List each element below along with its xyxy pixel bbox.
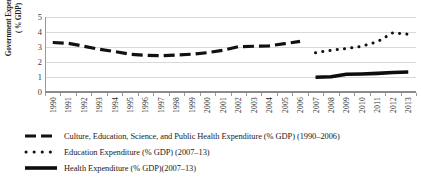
dotted-line-marker — [24, 146, 58, 158]
x-axis-tick — [370, 93, 371, 96]
x-axis-tick — [91, 93, 92, 96]
x-axis-tick-label: 2004 — [265, 97, 274, 113]
x-axis-tick-label: 2010 — [358, 97, 367, 113]
x-axis-tick-label: 2008 — [327, 97, 336, 113]
x-axis-tick-label: 2007 — [312, 97, 321, 113]
series-line-0 — [53, 41, 300, 55]
x-axis-tick-label: 2013 — [404, 97, 413, 113]
x-axis-tick-label: 1993 — [95, 97, 104, 113]
x-axis-tick — [246, 93, 247, 96]
x-axis-tick-label: 2000 — [203, 97, 212, 113]
x-axis-tick — [277, 93, 278, 96]
x-axis-tick-label: 1998 — [172, 97, 181, 113]
x-axis-tick-label: 2012 — [389, 97, 398, 113]
x-axis-tick — [261, 93, 262, 96]
x-axis-tick-label: 2003 — [250, 97, 259, 113]
x-axis-tick-label: 1997 — [157, 97, 166, 113]
x-axis-tick-label: 1995 — [126, 97, 135, 113]
x-axis-tick — [122, 93, 123, 96]
dashed-line-marker — [24, 130, 58, 142]
x-axis-tick — [45, 93, 46, 96]
x-axis-tick — [107, 93, 108, 96]
legend-item-label: Culture, Education, Science, and Public … — [64, 132, 340, 141]
chart-container: Government Expenditure ( % GDP) 012345 1… — [0, 0, 421, 183]
legend-item-label: Education Expenditure (% GDP) (2007–13) — [64, 148, 210, 157]
legend-item-0[interactable]: Culture, Education, Science, and Public … — [24, 128, 416, 144]
x-axis-tick-label: 1991 — [64, 97, 73, 113]
data-series-layer — [45, 17, 416, 92]
x-axis-tick-label: 2005 — [281, 97, 290, 113]
x-axis-tick-label: 2002 — [234, 97, 243, 113]
x-axis-tick — [292, 93, 293, 96]
y-axis-tick-labels: 012345 — [20, 17, 42, 92]
x-axis-tick — [416, 93, 417, 96]
x-axis-tick — [200, 93, 201, 96]
x-axis-tick-label: 2006 — [296, 97, 305, 113]
y-axis-title-line-1: Government Expenditure — [4, 0, 14, 72]
x-axis-tick — [60, 93, 61, 96]
x-axis-tick — [308, 93, 309, 96]
x-axis-tick — [231, 93, 232, 96]
x-axis-tick — [339, 93, 340, 96]
x-axis-tick — [76, 93, 77, 96]
x-axis-tick-label: 1999 — [188, 97, 197, 113]
y-axis-tick-label: 3 — [22, 43, 42, 52]
plot-area — [45, 17, 416, 92]
chart-legend: Culture, Education, Science, and Public … — [24, 128, 416, 176]
y-axis-tick-label: 5 — [22, 13, 42, 22]
x-axis-tick — [323, 93, 324, 96]
legend-item-2[interactable]: Health Expenditure (% GDP)(2007–13) — [24, 160, 416, 176]
x-axis-tick — [169, 93, 170, 96]
x-axis-tick — [215, 93, 216, 96]
solid-line-marker — [24, 162, 58, 174]
x-axis-tick — [354, 93, 355, 96]
y-axis-tick-label: 0 — [22, 88, 42, 97]
x-axis-tick-label: 1996 — [141, 97, 150, 113]
x-axis-tick-labels: 1990199119921993199419951996199719981999… — [45, 93, 416, 125]
y-axis-tick-label: 4 — [22, 28, 42, 37]
x-axis-tick — [184, 93, 185, 96]
x-axis-tick-label: 1990 — [49, 97, 58, 113]
x-axis-tick-label: 1992 — [80, 97, 89, 113]
series-line-1 — [316, 33, 409, 53]
y-axis-tick-label: 2 — [22, 58, 42, 67]
x-axis-tick-label: 2009 — [342, 97, 351, 113]
y-axis-tick-label: 1 — [22, 73, 42, 82]
x-axis-tick-label: 2011 — [373, 97, 382, 113]
x-axis-tick — [385, 93, 386, 96]
x-axis-tick — [153, 93, 154, 96]
legend-item-1[interactable]: Education Expenditure (% GDP) (2007–13) — [24, 144, 416, 160]
x-axis-tick-label: 1994 — [111, 97, 120, 113]
series-line-2 — [316, 72, 409, 77]
x-axis-tick — [401, 93, 402, 96]
x-axis-tick-label: 2001 — [219, 97, 228, 113]
legend-item-label: Health Expenditure (% GDP)(2007–13) — [64, 164, 196, 173]
x-axis-tick — [138, 93, 139, 96]
